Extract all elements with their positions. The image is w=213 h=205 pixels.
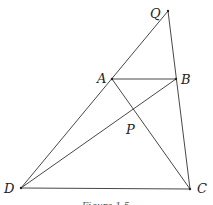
vertices: [20, 10, 191, 190]
label-c: C: [197, 181, 207, 196]
point-q: [167, 10, 169, 12]
geometry-diagram: Q A B P D C Figure 1.5: [0, 0, 213, 205]
label-p: P: [125, 122, 135, 137]
point-a: [111, 78, 113, 80]
point-c: [189, 188, 191, 190]
labels: Q A B P D C: [3, 6, 207, 196]
label-b: B: [180, 72, 191, 87]
label-d: D: [3, 181, 15, 196]
figure-caption: Figure 1.5: [81, 201, 130, 205]
label-a: A: [96, 71, 106, 86]
segment-dq: [21, 11, 168, 188]
label-q: Q: [150, 6, 161, 21]
point-b: [175, 78, 177, 80]
segments: [21, 11, 190, 189]
point-d: [20, 187, 22, 189]
segment-dc: [21, 188, 190, 189]
